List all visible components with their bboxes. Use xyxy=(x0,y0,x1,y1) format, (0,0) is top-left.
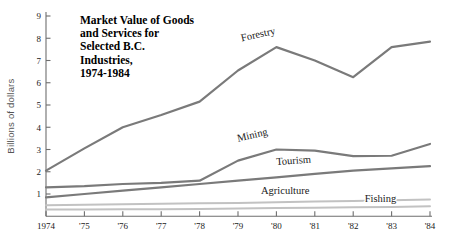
series-line-fishing xyxy=(46,206,430,209)
series-label-forestry: Forestry xyxy=(240,25,277,44)
y-tick-label: 2 xyxy=(37,167,42,177)
x-tick-label: '84 xyxy=(425,221,436,231)
chart-title-line: 1974-1984 xyxy=(80,67,130,79)
chart-title-line: Industries, xyxy=(80,54,133,66)
y-tick-label: 9 xyxy=(37,11,42,21)
series-label-mining: Mining xyxy=(236,126,269,144)
y-tick-label: 1 xyxy=(37,189,42,199)
x-tick-label: '77 xyxy=(156,221,167,231)
x-tick-label: '83 xyxy=(386,221,397,231)
x-tick-label: '78 xyxy=(194,221,205,231)
y-tick-label: 5 xyxy=(37,100,42,110)
series-label-tourism: Tourism xyxy=(276,154,312,167)
market-value-line-chart: 1234567891974'75'76'77'78'79'80'81'82'83… xyxy=(0,0,450,237)
x-tick-label: '82 xyxy=(348,221,359,231)
x-tick-label: '75 xyxy=(79,221,90,231)
y-tick-label: 3 xyxy=(37,145,42,155)
y-tick-label: 7 xyxy=(37,56,42,66)
x-tick-label: '79 xyxy=(233,221,244,231)
chart-title-line: Selected B.C. xyxy=(80,40,145,52)
x-tick-label: '81 xyxy=(309,221,320,231)
chart-container: 1234567891974'75'76'77'78'79'80'81'82'83… xyxy=(0,0,450,237)
y-tick-label: 6 xyxy=(37,78,42,88)
chart-title: Market Value of Goodsand Services forSel… xyxy=(80,14,195,79)
series-label-fishing: Fishing xyxy=(365,193,397,204)
series-label-agriculture: Agriculture xyxy=(261,185,310,196)
chart-title-line: and Services for xyxy=(80,27,159,39)
y-tick-label: 4 xyxy=(37,123,42,133)
x-tick-label: '80 xyxy=(271,221,282,231)
x-tick-label: 1974 xyxy=(37,221,56,231)
y-tick-label: 8 xyxy=(37,34,42,44)
chart-title-line: Market Value of Goods xyxy=(80,14,195,26)
x-tick-label: '76 xyxy=(117,221,128,231)
y-axis-title: Billions of dollars xyxy=(5,79,16,154)
